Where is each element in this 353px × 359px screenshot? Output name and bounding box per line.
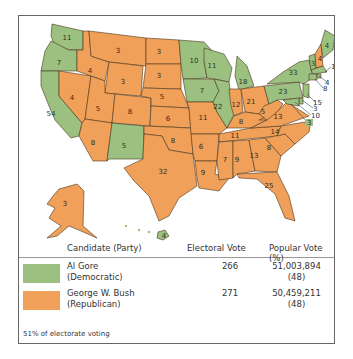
label-VA: 13: [274, 113, 283, 121]
state-AZ: [79, 119, 112, 161]
state-SD: [143, 64, 181, 89]
figure-frame: 11 7 54 4 4 3 3 5 8 8 5 3 3 5 6 8 32 10 …: [18, 15, 335, 344]
republican-swatch: [23, 291, 60, 310]
candidate-name: Al Gore: [67, 261, 123, 272]
label-MT: 3: [116, 47, 120, 55]
candidate-cell: Al Gore (Democratic): [67, 261, 123, 282]
legend-row-gore: Al Gore (Democratic) 266 51,003,894 (48): [19, 261, 334, 287]
label-MI: 18: [239, 78, 248, 86]
popular-vote-cell: 50,459,211 (48): [259, 288, 334, 309]
popular-vote: 50,459,211: [259, 288, 334, 299]
state-KS: [150, 106, 191, 128]
label-WI: 11: [208, 62, 217, 70]
popular-pct: (48): [259, 299, 334, 310]
label-NC: 14: [271, 128, 280, 136]
label-WA: 11: [63, 34, 72, 42]
label-VT: 3: [311, 60, 315, 68]
label-AL: 9: [235, 156, 239, 164]
label-ND: 3: [157, 48, 161, 56]
popular-vote-cell: 51,003,894 (48): [259, 261, 334, 282]
candidate-cell: George W. Bush (Republican): [67, 288, 135, 309]
label-SC: 8: [267, 144, 271, 152]
label-SD: 3: [157, 72, 161, 80]
popular-pct: (48): [259, 272, 334, 283]
label-CO: 8: [128, 108, 132, 116]
label-IA: 7: [200, 87, 204, 95]
label-ID: 4: [88, 67, 93, 75]
label-TN: 11: [231, 132, 240, 140]
label-CT: 8: [323, 85, 327, 93]
label-CA: 54: [47, 110, 56, 118]
label-KS: 6: [166, 115, 171, 123]
label-AK: 3: [63, 200, 67, 208]
state-HI-islands: [125, 225, 127, 227]
label-HI: 4: [162, 232, 167, 240]
electoral-vote: 266: [215, 261, 245, 271]
label-NM: 5: [122, 142, 126, 150]
label-OR: 7: [57, 59, 61, 67]
label-ME: 4: [325, 42, 330, 50]
label-PA: 23: [279, 88, 288, 96]
label-WY: 3: [121, 78, 125, 86]
state-FL: [237, 172, 295, 221]
state-HI-islands: [138, 229, 140, 231]
candidate-name: George W. Bush: [67, 288, 135, 299]
label-OK: 8: [171, 137, 175, 145]
state-HI-islands: [148, 231, 150, 233]
legend-header: Candidate (Party) Electoral Vote Popular…: [19, 243, 334, 258]
label-FL: 25: [265, 182, 274, 190]
state-DE: [299, 98, 303, 104]
candidate-party: (Democratic): [67, 272, 123, 283]
democratic-swatch: [23, 264, 60, 283]
label-AR: 6: [199, 143, 204, 151]
label-MD: 10: [311, 112, 320, 120]
label-NY: 33: [289, 69, 298, 77]
candidate-party: (Republican): [67, 299, 135, 310]
state-NJ: [303, 84, 309, 98]
label-MS: 7: [223, 156, 227, 164]
state-ND: [146, 38, 181, 64]
us-electoral-map: 11 7 54 4 4 3 3 5 8 8 5 3 3 5 6 8 32 10 …: [19, 16, 334, 241]
header-candidate: Candidate (Party): [67, 243, 142, 253]
label-NE: 5: [160, 93, 164, 101]
label-NV: 4: [70, 94, 75, 102]
state-AR: [191, 134, 219, 161]
label-DC: 3: [307, 119, 311, 127]
label-IL: 22: [214, 103, 223, 111]
label-MA: 12: [331, 63, 334, 71]
label-MO: 11: [199, 114, 208, 122]
label-NH: 4: [318, 55, 323, 63]
label-OH: 21: [247, 98, 256, 106]
electoral-vote: 271: [215, 288, 245, 298]
state-CT: [309, 74, 317, 80]
label-IN: 12: [232, 101, 241, 109]
label-LA: 9: [201, 169, 205, 177]
header-electoral: Electoral Vote: [187, 243, 246, 253]
label-GA: 13: [250, 152, 259, 160]
legend-row-bush: George W. Bush (Republican) 271 50,459,2…: [19, 288, 334, 314]
popular-vote: 51,003,894: [259, 261, 334, 272]
label-TX: 32: [159, 168, 168, 176]
state-AK: [47, 184, 97, 238]
footnote: 51% of electorate voting: [23, 330, 110, 338]
label-AZ: 8: [91, 139, 95, 147]
label-WV: 5: [261, 108, 265, 116]
label-UT: 5: [96, 105, 100, 113]
label-MN: 10: [190, 57, 199, 65]
label-KY: 8: [239, 118, 243, 126]
header-popular: Popular Vote (%): [269, 243, 334, 263]
